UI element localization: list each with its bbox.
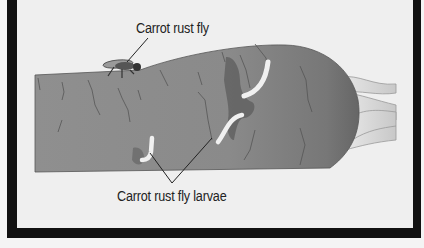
fly-label: Carrot rust fly — [136, 20, 209, 36]
carrot-illustration — [0, 0, 424, 248]
larvae-label: Carrot rust fly larvae — [117, 188, 226, 204]
